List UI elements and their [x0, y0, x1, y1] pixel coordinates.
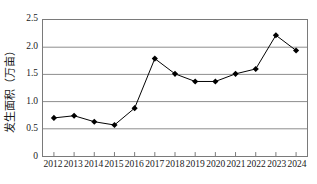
y-axis-title-text: 发生面积（万亩） — [5, 44, 16, 132]
x-tick-label: 2013 — [64, 159, 83, 170]
y-tick-label: 1.5 — [26, 69, 38, 79]
gridlines — [43, 47, 307, 129]
x-tick-label: 2022 — [247, 159, 266, 170]
y-tick-label: 0 — [33, 152, 38, 162]
data-series-line — [54, 35, 296, 125]
y-tick-label: 2.0 — [26, 42, 38, 52]
x-tick-label: 2023 — [267, 159, 286, 170]
data-point-marker — [192, 78, 198, 84]
x-axis-tick-marks — [54, 152, 296, 156]
plot-svg — [43, 20, 307, 156]
x-tick-label: 2016 — [125, 159, 144, 170]
x-tick-label: 2021 — [227, 159, 246, 170]
x-tick-label: 2018 — [166, 159, 185, 170]
x-tick-label: 2020 — [206, 159, 225, 170]
data-point-marker — [232, 71, 238, 77]
x-tick-label: 2017 — [145, 159, 164, 170]
line-chart: 发生面积（万亩） 00.51.01.52.02.5 20122013201420… — [0, 0, 317, 184]
data-point-marker — [51, 115, 57, 121]
y-axis-title: 发生面积（万亩） — [2, 19, 18, 157]
data-point-markers — [51, 32, 299, 128]
data-point-marker — [91, 119, 97, 125]
data-point-marker — [253, 66, 259, 72]
x-tick-label: 2024 — [288, 159, 307, 170]
x-axis-tick-labels: 2012201320142015201620172018201920202021… — [42, 159, 308, 173]
y-tick-label: 2.5 — [26, 14, 38, 24]
y-tick-label: 0.5 — [26, 125, 38, 135]
plot-area — [42, 19, 308, 157]
y-tick-label: 1.0 — [26, 97, 38, 107]
x-tick-label: 2019 — [186, 159, 205, 170]
x-tick-label: 2012 — [44, 159, 63, 170]
x-tick-label: 2014 — [84, 159, 103, 170]
data-point-marker — [71, 113, 77, 119]
y-axis-tick-labels: 00.51.01.52.02.5 — [18, 19, 40, 157]
x-tick-label: 2015 — [105, 159, 124, 170]
data-point-marker — [212, 78, 218, 84]
